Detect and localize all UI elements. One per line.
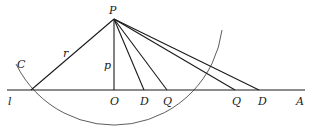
segment-pq2 xyxy=(114,19,235,90)
label-r: r xyxy=(63,47,69,60)
segment-pd1 xyxy=(114,19,144,90)
circle-arc-c xyxy=(16,30,222,125)
label-q1: Q xyxy=(163,95,172,108)
label-a: A xyxy=(295,95,304,108)
label-d2: D xyxy=(257,95,267,108)
label-l: l xyxy=(8,95,12,108)
label-o: O xyxy=(110,95,119,108)
segment-pr xyxy=(31,19,114,90)
label-p-point: P xyxy=(108,4,117,17)
segment-pd2 xyxy=(114,19,259,90)
label-c: C xyxy=(17,58,26,71)
label-d1: D xyxy=(139,95,149,108)
label-q2: Q xyxy=(232,95,241,108)
segment-pq1 xyxy=(114,19,167,90)
label-p-length: p xyxy=(104,59,111,72)
geometry-diagram: P r C p l O D Q Q D A xyxy=(0,0,311,139)
